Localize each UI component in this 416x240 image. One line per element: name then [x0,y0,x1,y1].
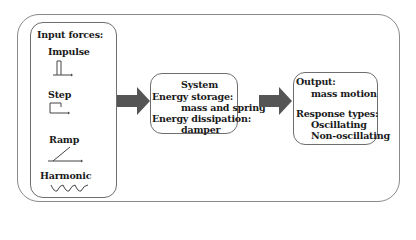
system-title: System [181,79,218,91]
harmonic-icon [50,183,92,193]
impulse-icon [52,59,74,77]
arrow-system-to-output [259,86,293,116]
input-forces-box: Input forces: Impulse Step Ramp Harmonic [30,22,117,198]
ramp-label: Ramp [49,134,79,146]
arrow-input-to-system [117,86,151,116]
ramp-icon [46,146,86,164]
step-icon [47,100,73,116]
input-title: Input forces: [37,29,103,41]
harmonic-label: Harmonic [40,170,91,182]
output-value: mass motion [311,88,377,100]
impulse-label: Impulse [48,46,90,58]
output-box: Output: mass motion Response types: Osci… [293,72,378,145]
system-box: System Energy storage: mass and spring E… [150,73,238,134]
energy-dissipation-value: damper [181,124,220,136]
output-title: Output: [296,76,336,88]
response-non-oscillating: Non-oscillating [311,130,390,142]
